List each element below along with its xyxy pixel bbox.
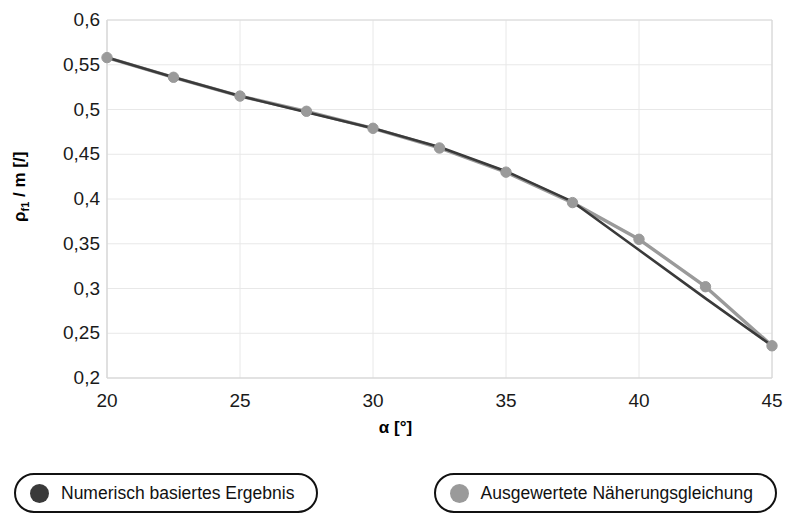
x-axis-tick-label: 30 — [362, 390, 383, 412]
legend-item-2: Ausgewertete Näherungsgleichung — [434, 473, 777, 513]
legend-item-1: Numerisch basiertes Ergebnis — [14, 473, 318, 513]
legend-item-label: Numerisch basiertes Ergebnis — [61, 483, 294, 504]
x-axis-tick-label: 20 — [96, 390, 117, 412]
x-axis-tick-label: 45 — [761, 390, 782, 412]
y-axis-title: ρf1 / m [/] — [10, 198, 31, 222]
x-axis-tick-label: 25 — [229, 390, 250, 412]
legend-item-label: Ausgewertete Näherungsgleichung — [481, 483, 753, 504]
legend-marker-circle-icon — [450, 484, 469, 503]
chart-figure: 0,20,250,30,350,40,450,50,550,6 20253035… — [0, 0, 791, 524]
x-axis-tick-label: 40 — [628, 390, 649, 412]
legend-marker-circle-icon — [30, 484, 49, 503]
chart-legend: Numerisch basiertes ErgebnisAusgewertete… — [0, 466, 791, 520]
x-axis-tick-label: 35 — [495, 390, 516, 412]
x-axis-title: α [°] — [0, 418, 791, 438]
x-axis-tick-labels: 202530354045 — [0, 0, 791, 524]
